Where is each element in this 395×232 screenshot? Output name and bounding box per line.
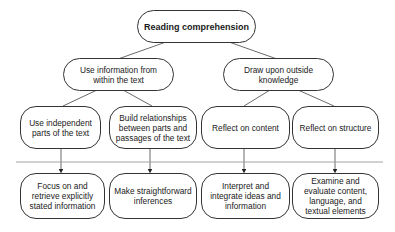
node-label: Reading comprehension [144, 22, 249, 32]
node-label: Examine and evaluate content, language, … [304, 176, 367, 216]
node-label: Draw upon outside knowledge [244, 65, 313, 85]
node-use-independent-parts: Use independent parts of the text [20, 106, 101, 149]
node-label: Use independent parts of the text [29, 118, 92, 138]
edge-right-to-content [244, 90, 270, 106]
edge-root-to-right [229, 42, 277, 59]
node-draw-upon-outside-knowledge: Draw upon outside knowledge [223, 58, 334, 91]
node-reflect-on-structure: Reflect on structure [292, 106, 379, 149]
node-build-relationships: Build relationships between parts and pa… [109, 106, 197, 149]
edge-root-to-left [118, 42, 166, 59]
edge-right-to-structure [298, 90, 334, 106]
node-straightforward-inferences: Make straightforward inferences [109, 173, 197, 219]
node-examine-evaluate: Examine and evaluate content, language, … [292, 173, 379, 219]
node-label: Use information from within the text [80, 65, 157, 85]
edge-left-to-independent [63, 90, 97, 106]
node-interpret-integrate: Interpret and integrate ideas and inform… [201, 173, 290, 219]
node-label: Build relationships between parts and pa… [116, 113, 190, 143]
node-reading-comprehension: Reading comprehension [137, 10, 256, 43]
node-label: Make straightforward inferences [114, 186, 191, 206]
edge-left-to-relationships [123, 90, 152, 106]
node-label: Reflect on structure [300, 123, 372, 133]
node-label: Reflect on content [212, 123, 279, 133]
node-focus-retrieve: Focus on and retrieve explicitly stated … [20, 173, 105, 219]
node-label: Interpret and integrate ideas and inform… [210, 181, 281, 211]
node-reflect-on-content: Reflect on content [201, 106, 290, 149]
node-label: Focus on and retrieve explicitly stated … [30, 181, 96, 211]
node-use-information-within-text: Use information from within the text [63, 58, 174, 91]
